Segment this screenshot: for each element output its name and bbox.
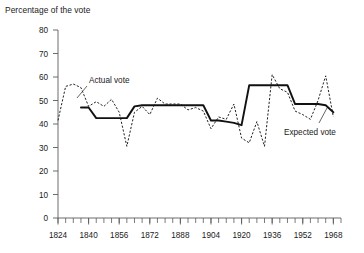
y-tick-label: 40 xyxy=(39,120,49,129)
y-tick-label: 0 xyxy=(43,214,48,223)
x-tick-label: 1840 xyxy=(79,231,98,240)
y-tick-label: 70 xyxy=(39,50,49,59)
x-tick-label: 1952 xyxy=(294,231,313,240)
y-tick-label: 20 xyxy=(39,167,49,176)
annotation-leader-expected-vote xyxy=(319,108,327,123)
y-tick-label: 50 xyxy=(39,97,49,106)
x-tick-label: 1936 xyxy=(263,231,282,240)
y-tick-labels: 01020304050607080 xyxy=(39,26,49,223)
annotation-group: Actual vote Expected vote xyxy=(77,76,336,137)
line-chart-plot: 01020304050607080 1824184018561872188819… xyxy=(0,0,364,253)
x-tick-label: 1856 xyxy=(110,231,129,240)
x-tick-label: 1888 xyxy=(171,231,190,240)
x-tick-label: 1824 xyxy=(49,231,68,240)
y-tick-label: 60 xyxy=(39,73,49,82)
y-axis-group: 01020304050607080 xyxy=(39,26,58,223)
x-tick-label: 1920 xyxy=(232,231,251,240)
annotation-label-expected-vote: Expected vote xyxy=(284,128,336,137)
x-axis-group: 1824184018561872188819041920193619521968 xyxy=(49,218,343,240)
series-line-expected-vote xyxy=(81,85,333,125)
y-tick-label: 80 xyxy=(39,26,49,35)
x-tick-label: 1904 xyxy=(202,231,221,240)
y-tick-label: 30 xyxy=(39,144,49,153)
x-tick-labels: 1824184018561872188819041920193619521968 xyxy=(49,231,343,240)
x-tick-label: 1968 xyxy=(324,231,343,240)
y-tick-marks xyxy=(53,30,58,218)
chart-container: Percentage of the vote 01020304050607080… xyxy=(0,0,364,253)
x-tick-marks-minor xyxy=(58,218,341,223)
annotation-label-actual-vote: Actual vote xyxy=(89,76,130,85)
y-tick-label: 10 xyxy=(39,191,49,200)
x-tick-label: 1872 xyxy=(141,231,160,240)
annotation-leader-actual-vote xyxy=(77,86,87,98)
